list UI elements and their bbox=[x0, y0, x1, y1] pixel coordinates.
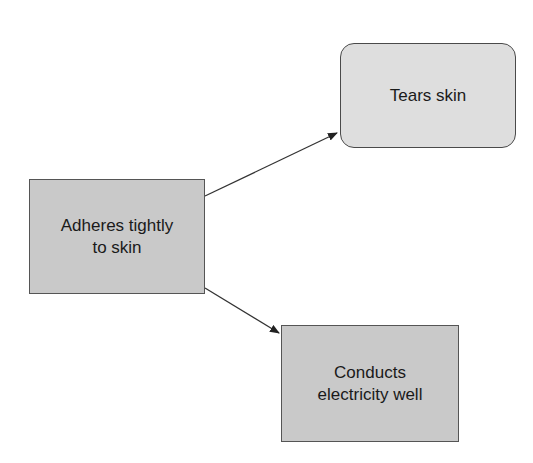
node-label: Conducts electricity well bbox=[318, 362, 423, 406]
node-label: Adheres tightly to skin bbox=[61, 215, 173, 259]
node-conducts-electricity-well: Conducts electricity well bbox=[281, 325, 459, 442]
arrow-adheres-to-conducts bbox=[205, 288, 279, 333]
arrow-adheres-to-tears bbox=[205, 133, 337, 196]
node-tears-skin: Tears skin bbox=[340, 43, 516, 148]
node-label: Tears skin bbox=[390, 85, 467, 107]
node-adheres-tightly-to-skin: Adheres tightly to skin bbox=[29, 179, 205, 294]
